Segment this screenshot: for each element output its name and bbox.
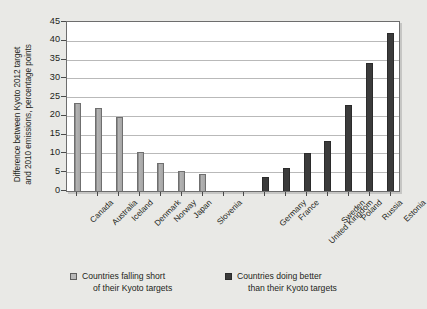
legend-swatch-dark-icon (225, 273, 232, 280)
legend-label-doing-better-line2: than their Kyoto targets (237, 283, 337, 295)
legend-item-doing-better: Countries doing better than their Kyoto … (237, 271, 337, 294)
gridline (67, 41, 399, 42)
x-tick-mark (306, 192, 307, 196)
x-tick-mark (181, 192, 182, 196)
x-tick-mark (369, 192, 370, 196)
legend-label-falling-short-line1: Countries falling short (82, 271, 165, 281)
x-tick-label-slovenia: Slovenia (215, 198, 244, 227)
x-tick-mark (97, 192, 98, 196)
y-tick-label: 40 (38, 35, 60, 44)
gridline (67, 78, 399, 79)
x-tick-mark (390, 192, 391, 196)
y-axis-title-line1: Difference between Kyoto 2012 target (12, 17, 23, 213)
x-tick-mark (160, 192, 161, 196)
x-tick-mark (139, 192, 140, 196)
x-tick-mark (285, 192, 286, 196)
cropped-header-remnant (0, 0, 412, 8)
bar-norway (157, 163, 164, 191)
legend-swatch-light-icon (70, 273, 77, 280)
x-tick-label-estonia: Estonia (402, 198, 427, 224)
y-tick-label: 45 (38, 17, 60, 26)
x-tick-label-russia: Russia (380, 198, 404, 222)
bar-poland (345, 105, 352, 191)
x-tick-mark (118, 192, 119, 196)
y-axis-title: Difference between Kyoto 2012 target and… (12, 17, 33, 213)
y-tick-label: 10 (38, 148, 60, 157)
bar-france (283, 168, 290, 191)
bar-japan (178, 171, 185, 191)
x-tick-mark (223, 192, 224, 196)
y-tick-label: 25 (38, 92, 60, 101)
y-tick-label: 35 (38, 54, 60, 63)
x-tick-mark (327, 192, 328, 196)
bar-canada (74, 103, 81, 191)
x-tick-mark (243, 192, 244, 196)
bar-estonia (387, 33, 394, 191)
legend-label-doing-better-line1: Countries doing better (237, 271, 322, 281)
bar-united-kingdom (304, 153, 311, 191)
plot-area (66, 21, 400, 192)
gridline (67, 60, 399, 61)
y-tick-label: 30 (38, 73, 60, 82)
bar-germany (262, 177, 269, 191)
y-tick-label: 20 (38, 110, 60, 119)
bar-slovenia (199, 174, 206, 191)
legend-item-falling-short: Countries falling short of their Kyoto t… (82, 271, 172, 294)
y-axis-title-line2: and 2010 emissions, percentage points (22, 17, 33, 213)
bar-sweden (324, 141, 331, 191)
x-tick-mark (348, 192, 349, 196)
bar-australia (95, 108, 102, 191)
x-tick-mark (76, 192, 77, 196)
bar-russia (366, 63, 373, 191)
gridline (67, 97, 399, 98)
chart-legend: Countries falling short of their Kyoto t… (0, 271, 412, 305)
bar-iceland (116, 117, 123, 191)
x-tick-label-united-kingdom: United Kingdom (327, 198, 375, 246)
y-tick-label: 0 (38, 186, 60, 195)
y-tick-label: 15 (38, 129, 60, 138)
y-tick-label: 5 (38, 167, 60, 176)
bar-denmark (137, 152, 144, 191)
x-tick-mark (264, 192, 265, 196)
legend-label-falling-short-line2: of their Kyoto targets (82, 283, 172, 295)
x-tick-mark (202, 192, 203, 196)
